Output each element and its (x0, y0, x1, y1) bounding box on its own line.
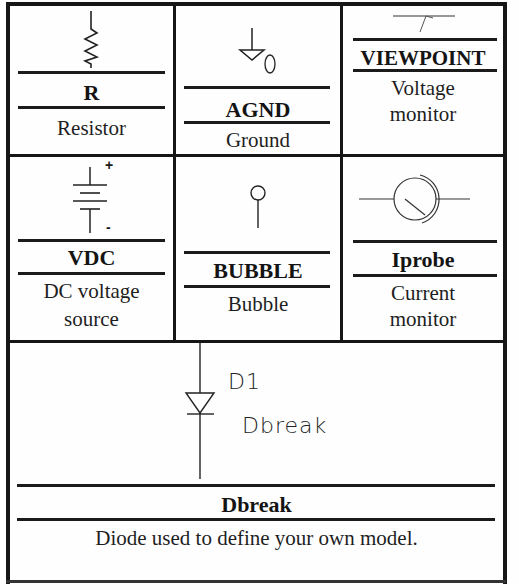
cell-resistor: R Resistor (10, 6, 173, 154)
part-description-line1: Current (343, 281, 503, 306)
rule-top (353, 38, 497, 41)
rule-bottom (353, 69, 497, 72)
part-description-line2: source (10, 307, 173, 332)
part-description: Diode used to define your own model. (10, 526, 503, 551)
minus-label: - (106, 219, 111, 235)
cell-iprobe: Iprobe Current monitor (343, 157, 503, 340)
rule-bottom (17, 518, 495, 521)
rule-bottom (353, 274, 497, 277)
part-description: Resistor (10, 116, 173, 141)
parts-table: R Resistor AGND Ground VIEWPOINT Voltage… (0, 0, 519, 584)
part-description: Ground (176, 128, 340, 153)
rule-top (18, 71, 165, 74)
rule-top (184, 251, 330, 254)
cell-dc-source: + - VDC DC voltage source (10, 157, 173, 340)
plus-label: + (105, 157, 113, 173)
part-name: AGND (176, 98, 340, 122)
part-name: VIEWPOINT (343, 46, 503, 70)
ref-designator: D1 (228, 369, 261, 394)
part-description-line2: monitor (343, 102, 503, 127)
part-name: Iprobe (343, 248, 503, 272)
part-name: VDC (10, 246, 173, 270)
rule-bottom (18, 106, 165, 109)
part-name: BUBBLE (176, 259, 340, 283)
part-name: R (10, 81, 173, 105)
rule-top (18, 239, 165, 242)
rule-top (17, 484, 495, 487)
rule-top (353, 240, 497, 243)
border-right (503, 2, 507, 584)
rule-bottom (184, 121, 330, 124)
rule-bottom (184, 285, 330, 288)
model-label: Dbreak (242, 413, 327, 438)
part-description-line1: Voltage (343, 76, 503, 101)
cell-bubble: BUBBLE Bubble (176, 157, 340, 340)
part-description: Bubble (176, 292, 340, 317)
cell-viewpoint: VIEWPOINT Voltage monitor (343, 6, 503, 154)
rule-bottom (18, 272, 165, 275)
cell-ground: AGND Ground (176, 6, 340, 154)
part-name: Dbreak (10, 493, 503, 517)
rule-top (184, 86, 330, 89)
cell-dbreak: D1 Dbreak Dbreak Diode used to define yo… (10, 343, 503, 584)
part-description-line1: DC voltage (10, 279, 173, 304)
part-description-line2: monitor (343, 307, 503, 332)
